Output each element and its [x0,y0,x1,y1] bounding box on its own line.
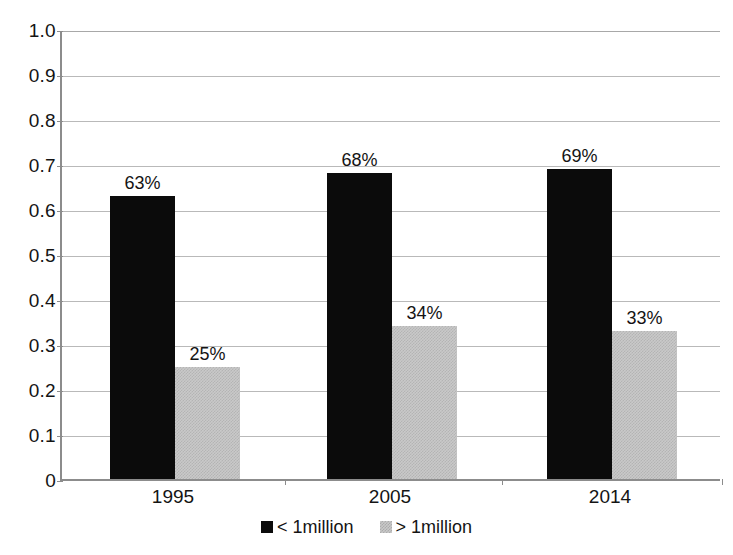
y-axis-tick-label: 0.2 [0,381,56,400]
bar-2005-series1 [327,173,392,479]
y-axis-tick-mark [57,166,63,167]
bar-value-label: 68% [321,151,398,169]
y-axis-tick-label: 1.0 [0,21,56,40]
gridline [62,31,720,32]
y-axis-tick-label: 0.1 [0,426,56,445]
y-axis-tick-mark [57,76,63,77]
bar-2005-series2 [392,326,457,479]
x-axis-tick-mark [285,479,286,485]
y-axis-tick-label: 0.7 [0,156,56,175]
y-axis-tick-label: 0.5 [0,246,56,265]
x-axis-tick-mark [502,479,503,485]
legend-item-1: < 1million [261,518,354,536]
y-axis-tick-label: 0 [0,471,56,490]
bar-1995-series1 [110,196,175,480]
chart-legend: < 1million> 1million [0,518,733,536]
x-axis-tick-label: 2014 [560,487,660,506]
legend-label: > 1million [396,518,473,536]
gridline [62,76,720,77]
plot-area: 63%25%68%34%69%33% [60,31,720,481]
bar-chart: 1.00.90.80.70.60.50.40.30.20.10 63%25%68… [0,0,733,555]
y-axis-tick-label: 0.6 [0,201,56,220]
gridline [62,121,720,122]
y-axis-tick-mark [57,256,63,257]
y-axis-tick-mark [57,391,63,392]
bar-value-label: 34% [386,304,463,322]
bar-value-label: 25% [169,345,246,363]
y-axis-tick-mark [57,31,63,32]
y-axis-tick-label: 0.8 [0,111,56,130]
legend-swatch-icon [261,521,273,533]
bar-value-label: 69% [541,147,618,165]
y-axis-tick-label: 0.4 [0,291,56,310]
bar-1995-series2 [175,367,240,480]
legend-label: < 1million [277,518,354,536]
bar-value-label: 33% [606,309,683,327]
x-axis-tick-label: 1995 [123,487,223,506]
y-axis-tick-mark [57,481,63,482]
x-axis-tick-mark [722,479,723,485]
y-axis-tick-mark [57,301,63,302]
bar-2014-series1 [547,169,612,480]
y-axis-tick-labels: 1.00.90.80.70.60.50.40.30.20.10 [0,31,56,481]
legend-item-2: > 1million [380,518,473,536]
y-axis-tick-label: 0.9 [0,66,56,85]
bar-value-label: 63% [104,174,181,192]
legend-swatch-icon [380,521,392,533]
y-axis-tick-mark [57,346,63,347]
y-axis-tick-label: 0.3 [0,336,56,355]
bar-2014-series2 [612,331,677,480]
y-axis-tick-mark [57,436,63,437]
x-axis-tick-label: 2005 [340,487,440,506]
y-axis-tick-mark [57,211,63,212]
y-axis-tick-mark [57,121,63,122]
